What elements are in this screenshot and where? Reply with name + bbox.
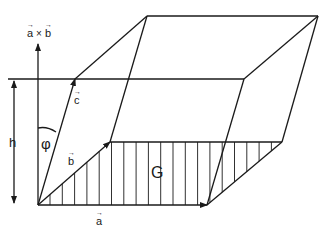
top-left-edge [75,16,147,79]
base-area-label: G [151,164,163,181]
vector-b-label-arrow: → [68,149,75,156]
vector-b-label: b [68,155,74,167]
height-label: h [9,135,16,150]
base-right-edge [207,142,282,205]
top-right-edge [244,16,318,79]
vector-a-label: a [96,215,103,227]
axis-label-cross: × [36,28,42,39]
vector-c-label-arrow: → [74,88,81,95]
axis-label-b-arrow: → [45,21,52,28]
axis-label-a-arrow: → [27,21,34,28]
vector-c-label: c [74,94,80,106]
axis-label-b: b [45,27,51,39]
angle-label: φ [41,135,51,152]
angle-arc [38,128,56,133]
vector-a-label-arrow: → [96,209,103,216]
axis-label-a: a [27,27,34,39]
axis-label: a → × b → [27,21,52,39]
back-right-edge [282,16,318,142]
parallelepiped-diagram: a → × b → c → b → a → h φ G [0,0,334,237]
